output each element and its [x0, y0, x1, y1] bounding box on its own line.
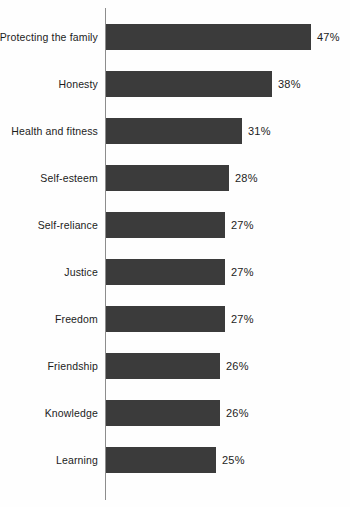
value-label: 27%	[231, 306, 254, 332]
value-label: 38%	[278, 71, 301, 97]
value-label: 26%	[226, 400, 249, 426]
chart-row: Protecting the family 47%	[0, 24, 350, 50]
category-label: Learning	[56, 447, 98, 473]
category-label: Justice	[64, 259, 98, 285]
category-label: Protecting the family	[0, 24, 98, 50]
category-label: Self-reliance	[38, 212, 98, 238]
value-label: 31%	[248, 118, 271, 144]
chart-row: Self-reliance 27%	[0, 212, 350, 238]
value-label: 27%	[231, 259, 254, 285]
category-label: Knowledge	[45, 400, 98, 426]
chart-row: Honesty 38%	[0, 71, 350, 97]
value-label: 47%	[317, 24, 340, 50]
value-label: 28%	[235, 165, 258, 191]
bar	[106, 212, 225, 238]
category-label: Health and fitness	[11, 118, 98, 144]
category-label: Friendship	[47, 353, 98, 379]
value-label: 25%	[222, 447, 245, 473]
chart-row: Justice 27%	[0, 259, 350, 285]
category-label: Honesty	[58, 71, 98, 97]
chart-row: Freedom 27%	[0, 306, 350, 332]
chart-row: Health and fitness 31%	[0, 118, 350, 144]
bar-chart: Protecting the family 47% Honesty 38% He…	[0, 0, 350, 507]
bar	[106, 24, 311, 50]
bar	[106, 447, 216, 473]
category-label: Freedom	[55, 306, 98, 332]
chart-row: Friendship 26%	[0, 353, 350, 379]
bar	[106, 259, 225, 285]
bar	[106, 71, 272, 97]
bar	[106, 353, 220, 379]
bar	[106, 118, 242, 144]
chart-row: Knowledge 26%	[0, 400, 350, 426]
value-label: 27%	[231, 212, 254, 238]
value-label: 26%	[226, 353, 249, 379]
bar	[106, 400, 220, 426]
bar	[106, 306, 225, 332]
bar	[106, 165, 229, 191]
chart-row: Learning 25%	[0, 447, 350, 473]
chart-row: Self-esteem 28%	[0, 165, 350, 191]
category-label: Self-esteem	[40, 165, 98, 191]
